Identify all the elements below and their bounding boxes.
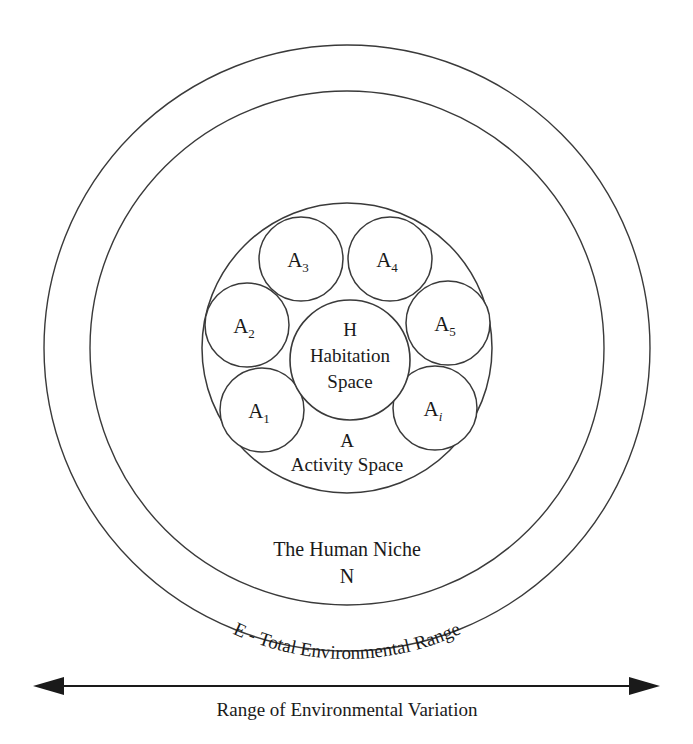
variation-axis-arrow-left [33,677,64,695]
habitation-name-line1: Habitation [310,345,391,366]
niche-diagram-canvas: E - Total Environmental Range The Human … [0,0,693,744]
variation-axis-caption: Range of Environmental Variation [217,699,478,720]
habitation-name-line2: Space [327,371,372,392]
variation-axis-arrow-right [629,677,660,695]
activity-name-label: Activity Space [291,454,403,475]
activity-symbol-label: A [340,430,354,451]
niche-diagram: E - Total Environmental Range The Human … [0,0,693,744]
human-niche-symbol-label: N [340,565,354,587]
habitation-symbol-label: H [343,319,357,340]
total-environmental-range-label: E - Total Environmental Range [231,618,464,663]
human-niche-name-label: The Human Niche [273,538,421,560]
